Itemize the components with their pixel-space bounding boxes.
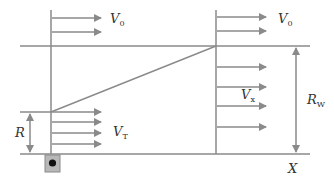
label-vt: VT — [113, 125, 128, 141]
label-r: R — [15, 126, 25, 139]
wake-boundary-line — [51, 46, 216, 112]
label-x: X — [288, 162, 297, 175]
label-v0-right: V0 — [278, 12, 292, 28]
turbine-hub-dot — [49, 159, 56, 166]
label-rw: RW — [307, 93, 325, 109]
label-vx: Vx — [241, 88, 255, 104]
label-v0-left: V0 — [110, 12, 124, 28]
